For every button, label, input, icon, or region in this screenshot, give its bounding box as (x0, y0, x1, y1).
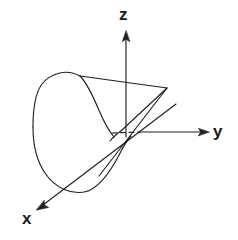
x-axis (37, 104, 177, 210)
x-axis-label: x (22, 210, 31, 227)
surface-near-parabola-right-branch (88, 136, 131, 191)
surface-origin-fold (110, 130, 122, 141)
surface-near-parabola-left-branch (33, 127, 88, 192)
coordinate-diagram: z y x (0, 0, 238, 240)
y-axis-label: y (213, 123, 222, 140)
surface-near-wedge-upper-edge (122, 88, 167, 130)
z-axis-label: z (119, 6, 128, 23)
surface-far-parabola-right-branch (80, 76, 114, 137)
x-axis-line (43, 104, 176, 205)
z-axis (122, 31, 129, 137)
surface-far-parabola-left-branch (33, 72, 80, 127)
diagram-canvas (0, 0, 238, 240)
surface-top-ruling-line (80, 76, 167, 88)
